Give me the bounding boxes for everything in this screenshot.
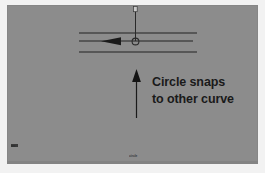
leader-top-terminator-icon	[134, 7, 138, 12]
callout-arrow-head-icon	[132, 69, 141, 82]
bottom-center-caption: circle	[129, 155, 137, 159]
figure-container: Circle snaps to other curve circle arc	[0, 0, 265, 173]
annotation-line-1: Circle snaps	[152, 75, 225, 89]
cad-viewport[interactable]: Circle snaps to other curve circle arc	[7, 5, 258, 164]
annotation-text: Circle snaps to other curve	[152, 74, 257, 107]
annotation-line-2: to other curve	[152, 91, 257, 108]
circle-snap-marker-icon	[132, 38, 139, 45]
bottom-left-caption-text: arc	[11, 145, 16, 148]
curve-direction-arrow-icon	[101, 37, 121, 45]
bottom-left-caption: arc	[11, 145, 16, 148]
